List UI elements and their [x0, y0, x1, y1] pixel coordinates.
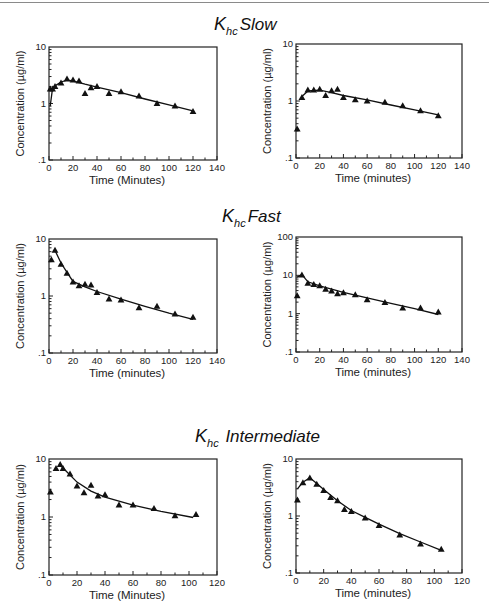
y-axis-label: Concentration (µg/ml) [14, 243, 26, 349]
data-point-triangle [88, 282, 95, 288]
plot-frame [296, 459, 462, 573]
x-tick-label: 60 [362, 354, 373, 365]
fit-curve [55, 250, 193, 319]
data-point-triangle [151, 505, 158, 511]
y-tick-label: 10 [282, 269, 293, 280]
x-tick-label: 0 [46, 355, 51, 366]
x-tick-label: 20 [68, 162, 79, 173]
x-tick-label: 20 [68, 355, 79, 366]
data-point-triangle [64, 76, 71, 82]
chart-top-right: 020406080100120140.1110Time (minutes)Con… [261, 38, 470, 184]
x-tick-label: 100 [407, 354, 423, 365]
fit-curve [60, 465, 193, 517]
data-point-triangle [193, 511, 200, 517]
x-tick-label: 60 [374, 575, 385, 586]
x-tick-label: 140 [454, 160, 470, 171]
x-tick-label: 100 [161, 162, 177, 173]
x-tick-label: 0 [46, 577, 51, 588]
x-tick-label: 60 [362, 160, 373, 171]
data-point-triangle [70, 279, 77, 285]
data-point-triangle [52, 247, 59, 253]
plot-frame [49, 47, 217, 160]
x-tick-label: 40 [338, 354, 349, 365]
chart-top-left: 020406080100120140.1110Time (Minutes)Con… [14, 41, 225, 186]
x-axis-label: Time (Minutes) [89, 174, 165, 186]
x-axis-label: Time (minutes) [335, 366, 411, 378]
x-tick-label: 120 [430, 160, 446, 171]
x-tick-label: 80 [386, 160, 397, 171]
data-point-triangle [82, 90, 89, 96]
data-point-triangle [58, 261, 65, 267]
x-tick-label: 0 [46, 162, 51, 173]
x-tick-label: 140 [209, 355, 225, 366]
x-tick-label: 20 [318, 575, 329, 586]
data-point-triangle [64, 270, 71, 276]
data-point-triangle [299, 271, 306, 277]
data-point-triangle [334, 86, 341, 92]
y-tick-label: 1 [41, 511, 46, 522]
x-tick-label: 60 [116, 162, 127, 173]
x-tick-label: 20 [314, 160, 325, 171]
x-tick-label: 120 [430, 354, 446, 365]
x-tick-label: 120 [454, 575, 470, 586]
y-tick-label: .1 [285, 152, 293, 163]
fit-curve [297, 478, 441, 551]
x-tick-label: 140 [454, 354, 470, 365]
y-tick-label: 1 [288, 95, 293, 106]
y-tick-label: 10 [35, 233, 46, 244]
plot-frame [49, 239, 217, 353]
x-tick-label: 40 [346, 575, 357, 586]
x-tick-label: 40 [92, 162, 103, 173]
y-axis-label: Concentration (µg/ml) [261, 242, 273, 348]
x-tick-label: 80 [156, 577, 167, 588]
y-tick-label: .1 [38, 154, 46, 165]
x-tick-label: 0 [293, 160, 298, 171]
x-tick-label: 120 [185, 355, 201, 366]
data-point-triangle [328, 87, 335, 93]
y-tick-label: .1 [285, 346, 293, 357]
data-point-triangle [136, 93, 143, 99]
y-tick-label: 10 [282, 453, 293, 464]
y-tick-label: 10 [35, 453, 46, 464]
data-point-triangle [322, 92, 329, 98]
x-tick-label: 20 [314, 354, 325, 365]
y-tick-label: 100 [277, 231, 293, 242]
data-point-triangle [310, 87, 317, 93]
data-point-triangle [435, 308, 442, 314]
chart-bottom-left: 020406080100120.1110Time (Minutes)Concen… [14, 453, 225, 601]
y-tick-label: 1 [41, 290, 46, 301]
x-tick-label: 60 [116, 355, 127, 366]
x-tick-label: 40 [92, 355, 103, 366]
data-point-triangle [304, 87, 311, 93]
fit-curve [297, 275, 438, 315]
x-tick-label: 100 [426, 575, 442, 586]
plot-frame [296, 237, 462, 352]
y-axis-label: Concentration (µg/ml) [261, 463, 273, 569]
x-tick-label: 40 [338, 160, 349, 171]
data-point-triangle [382, 99, 389, 105]
chart-grid: 020406080100120140.1110Time (Minutes)Con… [0, 0, 489, 607]
data-point-triangle [294, 126, 301, 132]
fit-curve [50, 80, 193, 111]
y-tick-label: .1 [38, 347, 46, 358]
chart-middle-left: 020406080100120140.1110Time (minutes)Con… [14, 233, 225, 379]
x-axis-label: Time (minutes) [89, 367, 165, 379]
data-point-triangle [294, 497, 301, 503]
data-point-triangle [47, 488, 54, 494]
data-point-triangle [102, 491, 109, 497]
x-tick-label: 0 [293, 354, 298, 365]
data-point-triangle [435, 112, 442, 118]
y-axis-label: Concentration (µg/ml) [14, 464, 26, 570]
y-tick-label: 10 [35, 41, 46, 52]
x-axis-label: Time (Minutes) [89, 589, 165, 601]
y-tick-label: .1 [38, 569, 46, 580]
plot-frame [296, 44, 462, 158]
data-point-triangle [417, 304, 424, 310]
y-axis-label: Concentration (µg/ml) [261, 48, 273, 154]
data-point-triangle [118, 88, 125, 94]
x-tick-label: 140 [209, 162, 225, 173]
data-point-triangle [76, 77, 83, 83]
x-tick-label: 120 [209, 577, 225, 588]
data-point-triangle [58, 79, 65, 85]
y-axis-label: Concentration (µg/ml) [14, 51, 26, 157]
